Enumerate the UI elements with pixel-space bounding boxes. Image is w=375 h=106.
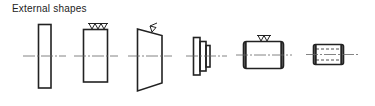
shape-hollow-cylinder: [306, 45, 360, 65]
machining-symbol-triple-icon: [88, 24, 108, 30]
shape-stepped-shaft: [186, 38, 227, 76]
machining-symbol-double-icon: [257, 36, 271, 42]
shape-rectangular-block: [74, 24, 118, 83]
shape-tapered-block: [128, 23, 172, 91]
shape-thin-disc: [23, 25, 66, 89]
machining-symbol-single-icon: [150, 23, 157, 32]
shape-cylinder-chamfered: [236, 36, 292, 69]
shapes-diagram: [0, 0, 375, 106]
